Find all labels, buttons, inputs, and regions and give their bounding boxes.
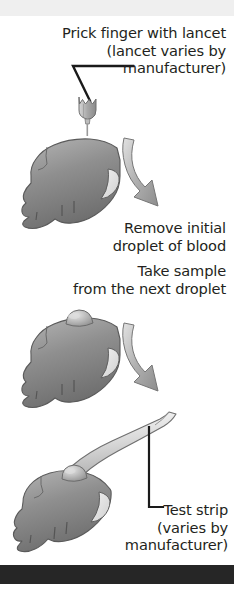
lancet-icon: [79, 97, 96, 136]
finger-icon-step3: [22, 310, 120, 408]
caption-test-strip: Test strip (varies by manufacturer): [110, 501, 228, 554]
curved-arrow-icon-1: [123, 138, 158, 206]
finger-icon-step4: [13, 465, 111, 552]
caption-remove-initial-droplet: Remove initial droplet of blood: [24, 219, 226, 254]
blood-droplet-icon-step3: [66, 310, 93, 326]
test-strip-icon: [72, 412, 176, 474]
caption-prick-finger-with-lancet: Prick finger with lancet (lancet varies …: [24, 24, 226, 77]
curved-arrow-icon-2: [123, 323, 158, 391]
blood-glucose-test-diagram: Prick finger with lancet (lancet varies …: [0, 0, 234, 604]
finger-icon-step2: [22, 139, 120, 229]
leader-line-icon-test-strip: [149, 427, 163, 507]
caption-take-sample-next-droplet: Take sample from the next droplet: [24, 262, 226, 297]
bottom-rule: [0, 565, 234, 584]
